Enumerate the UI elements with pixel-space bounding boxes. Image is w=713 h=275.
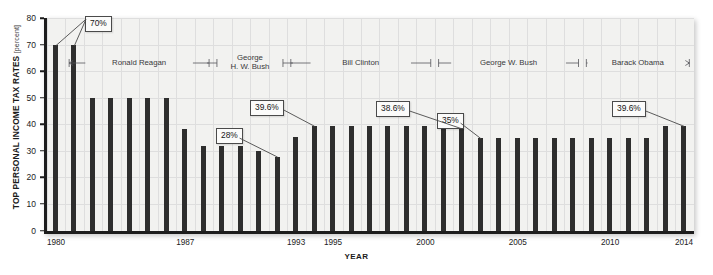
x-tick-label-1995: 1995 xyxy=(324,238,342,247)
gridline-vertical xyxy=(546,18,547,231)
gridline-vertical xyxy=(139,18,140,231)
bar-1990 xyxy=(238,146,243,231)
bar-1982 xyxy=(90,98,95,231)
bar-2014 xyxy=(681,126,686,231)
gridline-vertical xyxy=(306,18,307,231)
bar-2012 xyxy=(644,138,649,231)
callout-28-1: 28% xyxy=(216,128,243,144)
y-axis-title-text: TOP PERSONAL INCOME TAX RATES xyxy=(11,56,21,209)
bar-2003 xyxy=(478,138,483,231)
gridline-vertical xyxy=(47,18,48,231)
bar-1989 xyxy=(219,146,224,231)
bar-1995 xyxy=(330,126,335,231)
bar-2008 xyxy=(570,138,575,231)
y-tick-mark-20 xyxy=(40,177,44,179)
bar-1993 xyxy=(293,137,298,231)
gridline-vertical xyxy=(287,18,288,231)
gridline-vertical xyxy=(435,18,436,231)
gridline-vertical xyxy=(509,18,510,231)
bar-1997 xyxy=(367,126,372,231)
y-tick-mark-40 xyxy=(40,124,44,126)
bar-1984 xyxy=(127,98,132,231)
bar-2000 xyxy=(422,126,427,231)
callout-396-5: 39.6% xyxy=(612,101,646,117)
bar-1992 xyxy=(275,157,280,231)
bar-1985 xyxy=(145,98,150,231)
y-tick-mark-60 xyxy=(40,70,44,72)
chart-figure: TOP PERSONAL INCOME TAX RATES [percent] … xyxy=(0,0,713,275)
bar-1981 xyxy=(71,45,76,231)
gridline-vertical xyxy=(102,18,103,231)
bar-1991 xyxy=(256,151,261,231)
gridline-horizontal xyxy=(47,18,694,19)
callout-396-2: 39.6% xyxy=(250,100,284,116)
bar-2006 xyxy=(533,138,538,231)
gridline-vertical xyxy=(675,18,676,231)
gridline-vertical xyxy=(472,18,473,231)
y-tick-mark-50 xyxy=(40,97,44,99)
gridline-vertical xyxy=(269,18,270,231)
y-tick-label-20: 20 xyxy=(0,172,36,182)
gridline-vertical xyxy=(232,18,233,231)
y-tick-label-60: 60 xyxy=(0,66,36,76)
gridline-horizontal xyxy=(47,45,694,46)
bar-1987 xyxy=(182,129,187,231)
x-tick-label-2000: 2000 xyxy=(416,238,434,247)
bar-2011 xyxy=(626,138,631,231)
gridline-horizontal xyxy=(47,71,694,72)
y-tick-label-40: 40 xyxy=(0,119,36,129)
gridline-vertical xyxy=(657,18,658,231)
bar-1994 xyxy=(312,126,317,231)
bar-1999 xyxy=(404,126,409,231)
gridline-vertical xyxy=(527,18,528,231)
bar-2005 xyxy=(515,138,520,231)
bar-1998 xyxy=(385,126,390,231)
gridline-vertical xyxy=(121,18,122,231)
gridline-vertical xyxy=(416,18,417,231)
gridline-vertical xyxy=(158,18,159,231)
plot-inner xyxy=(47,18,694,231)
x-tick-label-1987: 1987 xyxy=(176,238,194,247)
gridline-vertical xyxy=(250,18,251,231)
y-tick-label-50: 50 xyxy=(0,93,36,103)
bar-1980 xyxy=(53,45,58,231)
gridline-vertical xyxy=(84,18,85,231)
x-tick-label-2005: 2005 xyxy=(509,238,527,247)
bar-2007 xyxy=(552,138,557,231)
bar-2009 xyxy=(589,138,594,231)
x-tick-label-2014: 2014 xyxy=(675,238,693,247)
gridline-vertical xyxy=(490,18,491,231)
callout-35-4: 35% xyxy=(437,113,464,129)
gridline-vertical xyxy=(324,18,325,231)
gridline-vertical xyxy=(398,18,399,231)
gridline-vertical xyxy=(213,18,214,231)
y-tick-label-70: 70 xyxy=(0,40,36,50)
gridline-vertical xyxy=(583,18,584,231)
x-tick-label-2010: 2010 xyxy=(601,238,619,247)
y-tick-mark-30 xyxy=(40,150,44,152)
gridline-vertical xyxy=(195,18,196,231)
bar-1996 xyxy=(349,126,354,231)
y-tick-mark-10 xyxy=(40,203,44,205)
gridline-vertical xyxy=(65,18,66,231)
bar-2001 xyxy=(441,127,446,231)
bar-1988 xyxy=(201,146,206,231)
bar-2010 xyxy=(607,138,612,231)
gridline-vertical xyxy=(379,18,380,231)
y-tick-label-0: 0 xyxy=(0,226,36,236)
x-tick-label-1993: 1993 xyxy=(287,238,305,247)
y-tick-label-10: 10 xyxy=(0,199,36,209)
gridline-horizontal xyxy=(47,98,694,99)
bar-2002 xyxy=(459,128,464,231)
gridline-vertical xyxy=(694,18,695,231)
y-tick-mark-70 xyxy=(40,44,44,46)
y-tick-label-30: 30 xyxy=(0,146,36,156)
gridline-vertical xyxy=(176,18,177,231)
callout-70-0: 70% xyxy=(85,16,112,32)
plot-area xyxy=(44,18,694,234)
gridline-vertical xyxy=(638,18,639,231)
gridline-vertical xyxy=(343,18,344,231)
bar-2004 xyxy=(496,138,501,231)
bar-1986 xyxy=(164,98,169,231)
gridline-vertical xyxy=(564,18,565,231)
